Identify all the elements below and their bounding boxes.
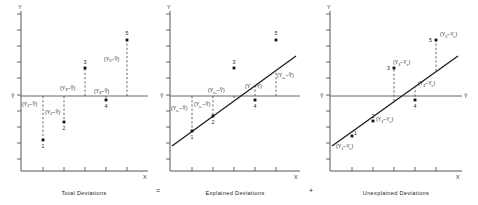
panel1-deviation-label-4: (Y4–Ȳ)	[94, 88, 110, 95]
panel2-deviation-label-3: (Yc₃–Ȳ)	[208, 87, 225, 95]
panel3-deviation-lines	[352, 40, 436, 136]
panel1-deviation-label-3: (Y3–Ȳ)	[60, 85, 76, 92]
panel-total-deviations: Y X Ȳ 1 2 3 4 5 (Y1–Ȳ) (Y2–Ȳ	[11, 4, 148, 196]
panel2-x-axis-label: X	[294, 174, 298, 180]
panel1-point-number-1: 1	[42, 143, 45, 149]
panel1-point-number-2: 2	[63, 125, 66, 131]
panel3-deviation-label-4: (Y4–Yc)	[418, 80, 435, 88]
panel3-deviation-label-5: (Y5–Yc)	[440, 31, 457, 39]
panel2-point-number-4: 4	[254, 103, 257, 109]
panel2-point-number-2: 2	[212, 119, 215, 125]
panel2-deviation-label-1: (Yc₁–Ȳ)	[171, 105, 188, 113]
panel1-deviation-label-1: (Y1–Ȳ)	[22, 101, 38, 108]
panel3-y-axis-label: Y	[327, 4, 331, 10]
panel3-point-number-5: 5	[429, 37, 432, 43]
panel3-x-axis-label: X	[456, 174, 460, 180]
panel3-deviation-label-1: (Y1–Yc)	[336, 143, 353, 151]
panel2-y-axis-label: Y	[167, 4, 171, 10]
panel1-point-number-4: 4	[105, 103, 108, 109]
panel1-point-number-3: 3	[84, 59, 87, 65]
panel2-point-number-3: 3	[233, 59, 236, 65]
panel2-data-points	[191, 39, 278, 133]
panel1-deviation-label-2: (Y2–Ȳ)	[45, 109, 61, 116]
panel-unexplained-deviations: Y X Ȳ Ȳ 1 2 3 4 5 (Y1–Yc) (Y2–Yc)	[320, 4, 468, 196]
panel1-y-ticks	[17, 14, 21, 159]
panel2-deviation-label-5: (Yc₅–Ȳ)	[277, 72, 294, 80]
panel2-y-ticks	[166, 14, 170, 159]
operator-equals: =	[156, 187, 160, 194]
panel3-caption: Unexplained Deviations	[363, 190, 429, 196]
panel1-point-number-5: 5	[126, 30, 129, 36]
panel2-mean-label: Ȳ	[160, 93, 164, 99]
panel2-deviation-label-4: (Yc₄–Ȳ)	[245, 83, 262, 91]
panel1-deviation-label-5: (Y5–Ȳ)	[104, 56, 120, 63]
panel-explained-deviations: Y X Ȳ 1 2 3 4 5 (Yc₁–Ȳ) (Yc₂–Ȳ)	[160, 4, 300, 196]
panel2-point-number-1: 1	[191, 134, 194, 140]
panel1-x-ticks	[43, 167, 127, 171]
panel1-x-axis-label: X	[143, 174, 147, 180]
panel3-y-ticks	[326, 14, 330, 159]
panel3-deviation-label-2: (Y2–Yc)	[376, 116, 393, 124]
deviations-figure: Y X Ȳ 1 2 3 4 5 (Y1–Ȳ) (Y2–Ȳ	[0, 0, 478, 205]
panel2-deviation-label-2: (Yc₂–Ȳ)	[194, 101, 211, 109]
panel3-x-ticks	[352, 167, 436, 171]
panel2-x-ticks	[192, 167, 276, 171]
panel1-mean-label: Ȳ	[11, 93, 15, 99]
panel1-y-axis-label: Y	[18, 4, 22, 10]
panel3-mean-label-right: Ȳ	[464, 93, 468, 99]
panel1-deviation-lines	[43, 40, 127, 140]
panel2-caption: Explained Deviations	[205, 190, 264, 196]
panel3-mean-label: Ȳ	[320, 93, 324, 99]
panel3-point-number-3: 3	[387, 65, 390, 71]
operator-plus: +	[309, 187, 313, 194]
panel3-regression-line	[332, 56, 458, 146]
panel3-point-number-4: 4	[414, 103, 417, 109]
panel1-caption: Total Deviations	[61, 190, 106, 196]
panel3-point-number-2: 2	[372, 113, 375, 119]
panel2-point-number-5: 5	[275, 30, 278, 36]
panel3-point-number-1: 1	[354, 130, 357, 136]
panel3-deviation-label-3: (Y3–Yc)	[393, 59, 410, 67]
